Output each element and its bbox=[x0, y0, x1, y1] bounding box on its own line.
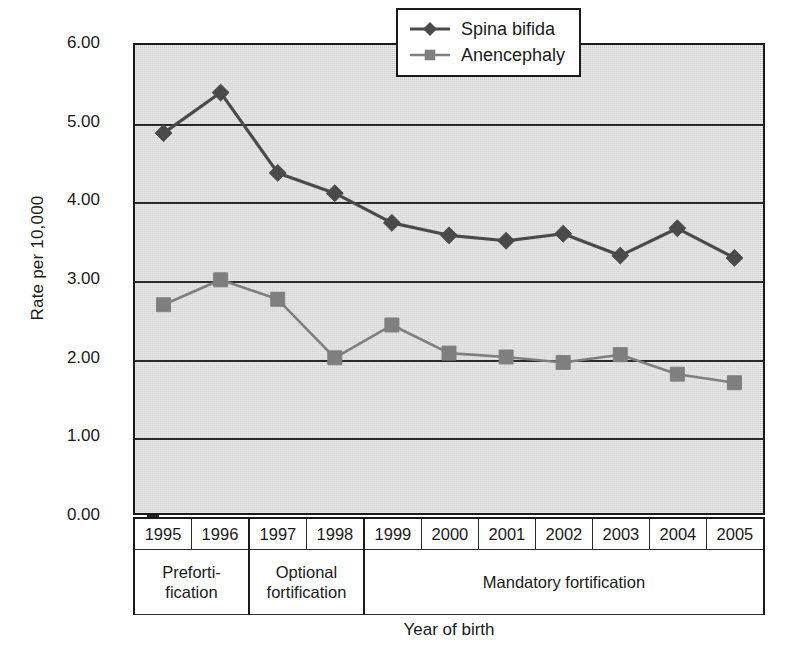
data-point-2001 bbox=[499, 350, 513, 364]
legend-label: Anencephaly bbox=[461, 46, 565, 64]
x-axis-table: 1995199619971998199920002001200220032004… bbox=[133, 517, 765, 615]
y-tick-label: 5.00 bbox=[67, 112, 100, 132]
x-axis-year-cell: 2005 bbox=[706, 518, 764, 550]
x-axis-year-row: 1995199619971998199920002001200220032004… bbox=[134, 518, 764, 550]
chart-figure: Rate per 10,000 0.001.002.003.004.005.00… bbox=[0, 0, 795, 659]
y-tick-label: 2.00 bbox=[67, 348, 100, 368]
data-point-2002 bbox=[556, 355, 570, 369]
x-axis-year-cell: 2000 bbox=[421, 518, 478, 550]
chart-legend: Spina bifidaAnencephaly bbox=[396, 8, 581, 77]
x-axis-group-cell: Optional fortification bbox=[249, 550, 364, 615]
data-point-1998 bbox=[326, 185, 343, 202]
data-point-2002 bbox=[555, 225, 572, 242]
data-point-1995 bbox=[157, 298, 171, 312]
x-axis-year-cell: 1998 bbox=[306, 518, 363, 550]
x-axis-title: Year of birth bbox=[133, 620, 765, 640]
x-axis-year-cell: 2002 bbox=[535, 518, 592, 550]
legend-label: Spina bifida bbox=[461, 20, 555, 38]
data-point-1999 bbox=[383, 214, 400, 231]
series-line bbox=[164, 280, 735, 383]
x-axis-group-row: Preforti- ficationOptional fortification… bbox=[134, 550, 764, 615]
x-axis-year-cell: 1995 bbox=[134, 518, 191, 550]
series-spina-bifida bbox=[155, 84, 743, 266]
y-tick-label: 4.00 bbox=[67, 190, 100, 210]
x-axis-year-cell: 2003 bbox=[592, 518, 649, 550]
x-axis-year-cell: 2001 bbox=[478, 518, 535, 550]
data-point-2001 bbox=[498, 232, 515, 249]
x-axis-year-cell: 1996 bbox=[191, 518, 248, 550]
y-axis-ticks: 0.001.002.003.004.005.006.00 bbox=[26, 0, 112, 659]
legend-item-spina-bifida: Spina bifida bbox=[408, 16, 565, 42]
x-axis-year-cell: 1997 bbox=[249, 518, 306, 550]
y-tick-label: 0.00 bbox=[67, 505, 100, 525]
legend-item-anencephaly: Anencephaly bbox=[408, 42, 565, 68]
data-point-1999 bbox=[385, 318, 399, 332]
data-point-2000 bbox=[441, 227, 458, 244]
x-axis-year-cell: 1999 bbox=[364, 518, 421, 550]
data-point-1998 bbox=[328, 351, 342, 365]
data-point-2000 bbox=[442, 346, 456, 360]
y-tick-label: 3.00 bbox=[67, 269, 100, 289]
plot-area bbox=[133, 43, 765, 515]
data-point-2004 bbox=[669, 220, 686, 237]
square-marker-icon bbox=[408, 46, 452, 64]
series-layer bbox=[135, 45, 763, 513]
data-point-2003 bbox=[613, 348, 627, 362]
series-anencephaly bbox=[157, 273, 742, 390]
data-point-2004 bbox=[670, 367, 684, 381]
x-axis-year-cell: 2004 bbox=[649, 518, 706, 550]
data-point-1996 bbox=[214, 273, 228, 287]
data-point-2003 bbox=[612, 247, 629, 264]
data-point-2005 bbox=[727, 376, 741, 390]
diamond-marker-icon bbox=[408, 20, 452, 38]
x-axis-group-cell: Mandatory fortification bbox=[364, 550, 764, 615]
data-point-2005 bbox=[726, 250, 743, 267]
y-tick-label: 6.00 bbox=[67, 33, 100, 53]
x-axis-group-cell: Preforti- fication bbox=[134, 550, 249, 615]
y-tick-label: 1.00 bbox=[67, 426, 100, 446]
data-point-1997 bbox=[271, 292, 285, 306]
